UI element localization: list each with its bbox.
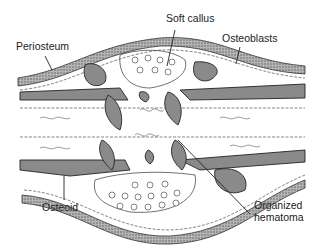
label-organized-hematoma-line1: Organized <box>254 200 302 211</box>
label-osteoid: Osteoid <box>42 202 78 213</box>
bone-fragments <box>20 62 305 193</box>
label-osteoblasts: Osteoblasts <box>222 33 277 44</box>
cartilage-cells <box>94 50 195 212</box>
label-soft-callus: Soft callus <box>166 13 214 24</box>
label-organized-hematoma-line2: hematoma <box>254 212 304 223</box>
label-periosteum: Periosteum <box>16 41 69 52</box>
